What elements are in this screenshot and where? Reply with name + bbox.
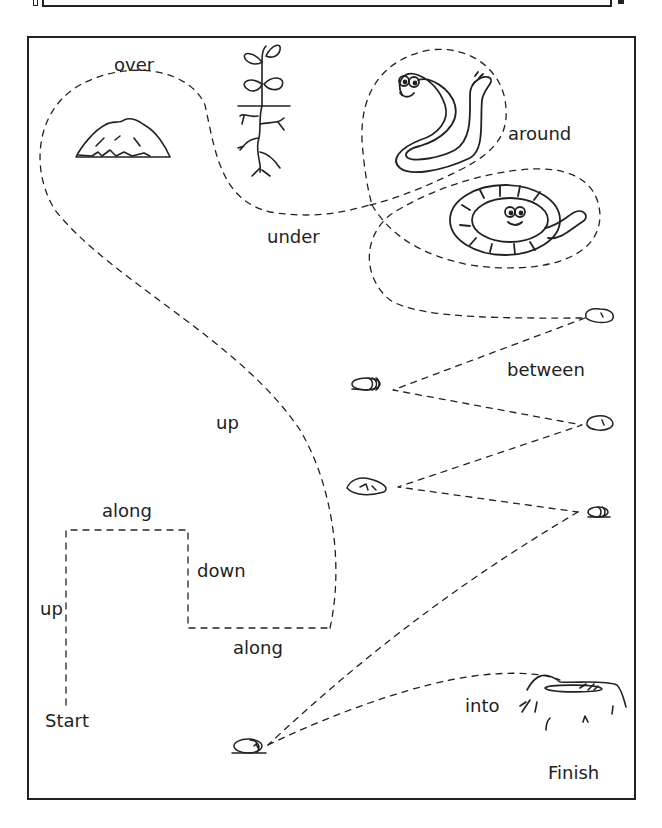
word-up-long: up xyxy=(216,414,239,432)
dashed-route xyxy=(40,49,600,745)
stone-icon-4 xyxy=(347,478,386,495)
worm-coiled-icon xyxy=(450,185,586,255)
word-under: under xyxy=(267,228,320,246)
word-between: between xyxy=(507,361,585,379)
plant-with-roots-icon xyxy=(238,45,290,176)
word-around: around xyxy=(508,125,571,143)
hole-in-ground-icon xyxy=(520,675,626,730)
stone-icon-3 xyxy=(587,416,613,430)
stone-icon-2 xyxy=(352,378,380,390)
word-down: down xyxy=(197,562,246,580)
word-along-bottom: along xyxy=(233,639,283,657)
word-into: into xyxy=(465,697,499,715)
label-start: Start xyxy=(45,712,89,730)
word-along-top: along xyxy=(102,502,152,520)
word-up-short: up xyxy=(40,600,63,618)
stone-icon-6 xyxy=(232,739,266,753)
soil-mound-icon xyxy=(76,119,170,157)
label-finish: Finish xyxy=(548,764,599,782)
stone-icon-5 xyxy=(588,507,610,517)
word-over: over xyxy=(114,56,154,74)
stone-icon-1 xyxy=(586,309,614,323)
worm-s-shape-icon xyxy=(396,72,491,172)
